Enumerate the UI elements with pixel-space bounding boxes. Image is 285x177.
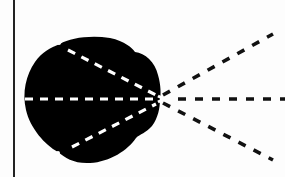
light-ray-diagram [0, 0, 285, 177]
outer-ray-lower [163, 103, 273, 160]
bottom-notch [56, 151, 60, 155]
outer-ray-upper [163, 34, 273, 95]
outer-rays [163, 34, 285, 160]
diagram-canvas [0, 0, 285, 177]
top-notch [57, 41, 61, 45]
